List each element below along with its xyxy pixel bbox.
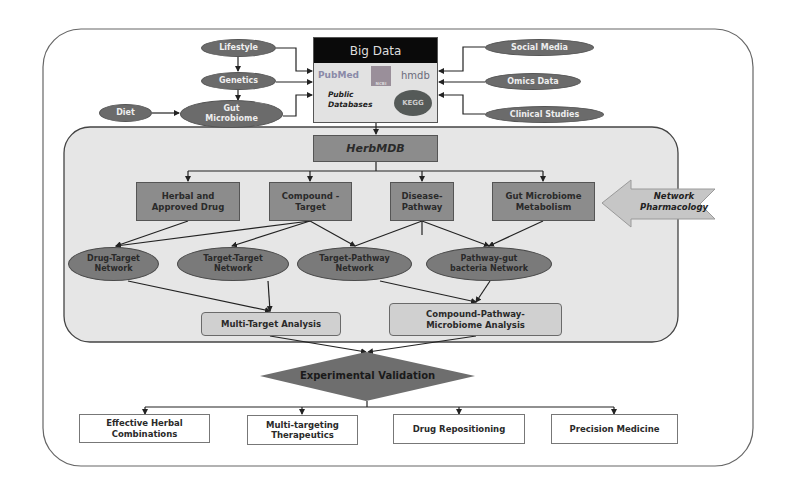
net-line2: Network — [94, 264, 132, 274]
category-herbal-approved-drug: Herbal andApproved Drug — [136, 182, 240, 221]
hmdb-logo: hmdb — [401, 70, 430, 81]
genetics-label: Genetics — [219, 76, 258, 86]
ncbi-logo: NCBI — [371, 66, 391, 86]
experimental-validation-label: Experimental Validation — [260, 366, 475, 386]
net-line2: Network — [214, 264, 252, 274]
cat-line2: Pathway — [402, 202, 443, 212]
outcome-line1: Precision Medicine — [570, 424, 660, 434]
input-diet: Diet — [99, 104, 152, 122]
caption-line2: Databases — [328, 100, 372, 110]
input-gut-microbiome: Gut Microbiome — [180, 100, 283, 128]
net-line1: Pathway-gut — [461, 254, 518, 264]
network-pharmacology-label: Network Pharmacology — [636, 191, 712, 212]
cat-line2: Metabolism — [516, 202, 572, 212]
outcome-multi-targeting-therapeutics: Multi-targetingTherapeutics — [247, 415, 358, 445]
outcome-line2: Combinations — [112, 429, 178, 439]
net-line1: Target-Target — [203, 254, 263, 264]
social-media-label: Social Media — [511, 43, 568, 53]
cat-line1: Disease- — [402, 191, 443, 201]
cat-line2: Approved Drug — [152, 202, 225, 212]
network-target-target: Target-TargetNetwork — [177, 247, 289, 281]
lifestyle-label: Lifestyle — [219, 43, 258, 53]
category-compound-target: Compound -Target — [269, 182, 352, 221]
herbmdb-label: HerbMDB — [346, 142, 404, 155]
analysis-multi-target: Multi-Target Analysis — [201, 312, 341, 336]
outcome-line2: Therapeutics — [271, 430, 334, 440]
cat-line1: Compound - — [282, 191, 340, 201]
input-lifestyle: Lifestyle — [201, 39, 276, 57]
net-line2: Network — [335, 264, 373, 274]
gut-microbiome-line2: Microbiome — [205, 114, 258, 124]
cat-line1: Gut Microbiome — [506, 191, 582, 201]
np-line2: Pharmacology — [636, 202, 712, 213]
big-data-box: Big Data PubMed NCBI hmdb Public Databas… — [313, 37, 438, 123]
cat-line2: Target — [295, 202, 326, 212]
herbmdb-box: HerbMDB — [313, 135, 438, 162]
analysis-compound-pathway-microbiome: Compound-Pathway-Microbiome Analysis — [389, 303, 562, 336]
validation-text: Experimental Validation — [300, 370, 435, 382]
cat-line1: Herbal and — [162, 191, 215, 201]
gut-microbiome-line1: Gut — [223, 104, 239, 114]
kegg-logo: KEGG — [394, 90, 432, 116]
pubmed-logo: PubMed — [318, 70, 359, 80]
category-disease-pathway: Disease-Pathway — [390, 182, 454, 221]
analysis-line1: Multi-Target Analysis — [221, 319, 321, 329]
caption-line1: Public — [328, 90, 372, 100]
net-line1: Drug-Target — [87, 254, 140, 264]
outcome-line1: Drug Repositioning — [413, 424, 505, 434]
network-pathway-gut-bacteria: Pathway-gutbacteria Network — [426, 247, 552, 281]
outcome-effective-herbal-combinations: Effective HerbalCombinations — [79, 414, 210, 443]
network-drug-target: Drug-TargetNetwork — [68, 247, 159, 281]
input-genetics: Genetics — [201, 72, 276, 90]
np-line1: Network — [636, 191, 712, 202]
analysis-line2: Microbiome Analysis — [426, 320, 525, 330]
outcome-drug-repositioning: Drug Repositioning — [393, 414, 525, 444]
analysis-line1: Compound-Pathway- — [426, 309, 525, 319]
net-line2: bacteria Network — [450, 264, 528, 274]
clinical-studies-label: Clinical Studies — [510, 110, 579, 120]
public-databases-caption: Public Databases — [328, 90, 372, 110]
net-line1: Target-Pathway — [319, 254, 389, 264]
input-clinical-studies: Clinical Studies — [485, 106, 604, 123]
network-target-pathway: Target-PathwayNetwork — [297, 247, 412, 281]
diet-label: Diet — [116, 108, 135, 118]
diagram-canvas: Lifestyle Genetics Diet Gut Microbiome S… — [0, 0, 793, 489]
outcome-line1: Effective Herbal — [106, 418, 183, 428]
outcome-line1: Multi-targeting — [266, 420, 339, 430]
outcome-precision-medicine: Precision Medicine — [551, 414, 678, 444]
input-social-media: Social Media — [485, 39, 594, 56]
omics-data-label: Omics Data — [507, 77, 558, 87]
input-omics-data: Omics Data — [485, 73, 581, 90]
big-data-title: Big Data — [314, 38, 437, 63]
category-gut-microbiome-metabolism: Gut MicrobiomeMetabolism — [492, 182, 595, 221]
